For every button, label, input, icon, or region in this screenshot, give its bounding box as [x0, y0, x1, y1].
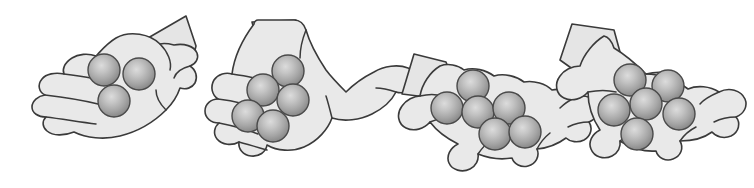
panel-hand-two — [205, 20, 416, 156]
ball — [509, 116, 541, 148]
ball — [277, 84, 309, 116]
panel-hand-one — [32, 16, 198, 138]
ball — [123, 58, 155, 90]
hand-two-shape — [205, 20, 416, 156]
ball — [621, 118, 653, 150]
hands-illustration — [0, 0, 754, 188]
ball — [630, 88, 662, 120]
ball — [98, 85, 130, 117]
ball — [663, 98, 695, 130]
ball — [257, 110, 289, 142]
ball — [598, 94, 630, 126]
ball — [431, 92, 463, 124]
ball — [88, 54, 120, 86]
illustration-canvas: Hands holding spheres Four line-drawn op… — [0, 0, 754, 188]
ball — [479, 118, 511, 150]
